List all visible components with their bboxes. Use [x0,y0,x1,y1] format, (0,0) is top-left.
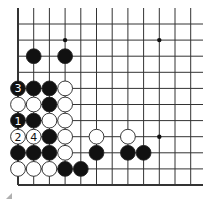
black-stone [42,129,57,144]
black-stone [58,49,73,64]
black-stone [26,113,41,128]
move-number-label: 4 [30,131,37,144]
black-stone [89,145,104,160]
white-stone [42,113,57,128]
white-stone [58,129,73,144]
black-stone [42,145,57,160]
white-stone: 4 [26,129,41,144]
white-stone [89,129,104,144]
hoshi-dot [157,135,161,139]
black-stone [42,97,57,112]
move-number-label: 1 [15,115,22,128]
white-stone [26,162,41,177]
black-stone [11,145,26,160]
move-number-label: 2 [15,131,22,144]
black-stone [58,162,73,177]
black-stone [26,81,41,96]
white-stone [58,97,73,112]
white-stone [121,129,136,144]
black-stone: 3 [11,81,26,96]
move-number-label: 3 [15,82,22,95]
white-stone [11,97,26,112]
white-stone [26,97,41,112]
white-stone [58,113,73,128]
white-stone [58,145,73,160]
white-stone [11,162,26,177]
hoshi-dot [157,38,161,42]
black-stone [73,162,88,177]
white-stone: 2 [11,129,26,144]
black-stone [26,49,41,64]
white-stone [42,162,57,177]
black-stone: 1 [11,113,26,128]
corner-triangle-icon [6,193,12,199]
black-stone [121,145,136,160]
go-board: 3124 [0,0,212,201]
hoshi-dot [63,38,67,42]
white-stone [58,81,73,96]
black-stone [26,145,41,160]
black-stone [42,81,57,96]
black-stone [136,145,151,160]
